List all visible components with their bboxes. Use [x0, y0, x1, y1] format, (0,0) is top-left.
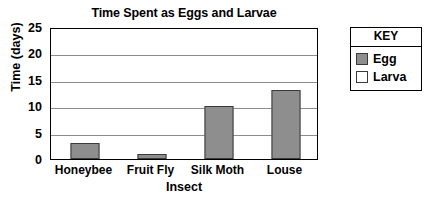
- bar-slot: [118, 29, 185, 159]
- x-tick-label: Honeybee: [55, 163, 112, 177]
- legend-entries: EggLarva: [351, 47, 421, 90]
- x-tick-label: Fruit Fly: [127, 163, 174, 177]
- bar-silk-moth[interactable]: [204, 106, 233, 159]
- legend-label: Egg: [373, 53, 397, 66]
- chart-figure: Time Spent as Eggs and Larvae Time (days…: [0, 0, 432, 210]
- bars-layer: [51, 29, 317, 159]
- bar-slot: [185, 29, 252, 159]
- legend: KEY EggLarva: [350, 27, 422, 91]
- legend-item-larva[interactable]: Larva: [356, 68, 421, 86]
- x-axis-tick-labels: HoneybeeFruit FlySilk MothLouse: [50, 163, 318, 179]
- y-tick-label: 10: [28, 101, 42, 114]
- x-tick-label: Louse: [267, 163, 302, 177]
- y-tick-label: 5: [35, 127, 42, 140]
- y-tick-label: 15: [28, 75, 42, 88]
- bar-slot: [252, 29, 319, 159]
- y-tick-label: 25: [28, 22, 42, 35]
- bar-slot: [51, 29, 118, 159]
- chart-title: Time Spent as Eggs and Larvae: [50, 6, 318, 20]
- x-tick-label: Silk Moth: [191, 163, 244, 177]
- x-axis-title: Insect: [50, 180, 318, 194]
- y-axis-tick-labels: 0510152025: [0, 28, 46, 160]
- legend-swatch-icon: [356, 71, 368, 83]
- plot-area: [50, 28, 318, 160]
- legend-label: Larva: [373, 71, 406, 84]
- bar-fruit-fly[interactable]: [137, 154, 166, 159]
- bar-louse[interactable]: [271, 90, 300, 159]
- y-tick-label: 20: [28, 48, 42, 61]
- legend-swatch-icon: [356, 53, 368, 65]
- legend-title: KEY: [351, 28, 421, 47]
- y-tick-label: 0: [35, 154, 42, 167]
- bar-honeybee[interactable]: [70, 143, 99, 159]
- legend-item-egg[interactable]: Egg: [356, 50, 421, 68]
